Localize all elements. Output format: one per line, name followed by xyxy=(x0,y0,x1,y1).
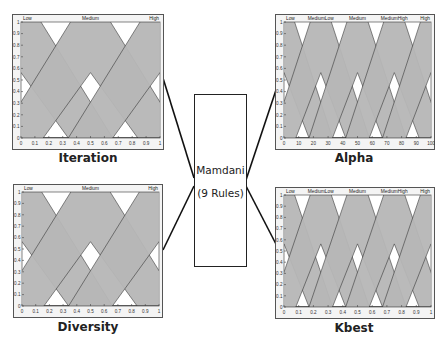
svg-text:0.3: 0.3 xyxy=(60,141,67,146)
svg-text:1: 1 xyxy=(18,190,21,195)
svg-text:0.5: 0.5 xyxy=(14,247,21,252)
svg-text:0.9: 0.9 xyxy=(13,31,20,36)
diversity-caption: Diversity xyxy=(13,320,163,334)
rules-count-label: (9 Rules) xyxy=(195,187,246,199)
svg-text:Low: Low xyxy=(24,186,33,191)
svg-text:0.5: 0.5 xyxy=(87,141,94,146)
svg-text:1: 1 xyxy=(280,193,283,198)
svg-text:0.6: 0.6 xyxy=(101,309,108,314)
svg-text:1: 1 xyxy=(280,20,283,25)
svg-text:0.1: 0.1 xyxy=(276,294,283,299)
svg-text:Medium: Medium xyxy=(82,186,99,191)
svg-text:0: 0 xyxy=(283,310,286,315)
svg-text:1: 1 xyxy=(430,310,433,315)
svg-text:0.3: 0.3 xyxy=(14,270,21,275)
mamdani-label: Mamdani xyxy=(195,164,246,176)
svg-text:0.5: 0.5 xyxy=(87,309,94,314)
svg-text:0.8: 0.8 xyxy=(398,310,405,315)
kbest-caption: Kbest xyxy=(275,321,433,335)
svg-text:90: 90 xyxy=(414,141,420,146)
svg-text:0.2: 0.2 xyxy=(13,113,20,118)
svg-text:Medium: Medium xyxy=(349,189,366,194)
connector-iteration xyxy=(163,78,194,178)
alpha-membership-chart: 00.10.20.30.40.50.60.70.80.9101020304050… xyxy=(275,14,435,150)
svg-text:0.5: 0.5 xyxy=(276,78,283,83)
svg-text:0.2: 0.2 xyxy=(276,113,283,118)
svg-text:0.9: 0.9 xyxy=(276,204,283,209)
svg-text:0.7: 0.7 xyxy=(276,55,283,60)
svg-text:Medium: Medium xyxy=(349,16,366,21)
svg-text:0.6: 0.6 xyxy=(13,66,20,71)
svg-text:0.6: 0.6 xyxy=(276,238,283,243)
svg-text:Low: Low xyxy=(286,16,295,21)
svg-text:0.6: 0.6 xyxy=(14,235,21,240)
svg-text:MediumLow: MediumLow xyxy=(308,16,334,21)
svg-text:0.4: 0.4 xyxy=(276,260,283,265)
svg-text:70: 70 xyxy=(384,141,390,146)
svg-text:Medium: Medium xyxy=(82,16,99,21)
svg-text:60: 60 xyxy=(370,141,376,146)
svg-text:0.4: 0.4 xyxy=(13,89,20,94)
svg-text:0.8: 0.8 xyxy=(13,43,20,48)
svg-text:0.3: 0.3 xyxy=(13,101,20,106)
svg-text:0.1: 0.1 xyxy=(32,141,39,146)
svg-text:0.1: 0.1 xyxy=(276,124,283,129)
svg-text:Low: Low xyxy=(23,16,32,21)
svg-text:0.4: 0.4 xyxy=(14,258,21,263)
svg-text:0.7: 0.7 xyxy=(276,226,283,231)
svg-text:0.5: 0.5 xyxy=(354,310,361,315)
connector-alpha xyxy=(246,84,278,180)
connector-kbest xyxy=(246,186,278,248)
svg-text:0.3: 0.3 xyxy=(325,310,332,315)
svg-text:0.9: 0.9 xyxy=(276,31,283,36)
svg-text:High: High xyxy=(420,16,430,21)
svg-text:0.7: 0.7 xyxy=(384,310,391,315)
svg-text:MediumHigh: MediumHigh xyxy=(381,189,408,194)
iteration-membership-chart: 00.10.20.30.40.50.60.70.80.9100.10.20.30… xyxy=(12,14,164,150)
svg-text:0.6: 0.6 xyxy=(101,141,108,146)
svg-text:0.9: 0.9 xyxy=(413,310,420,315)
svg-text:0.2: 0.2 xyxy=(276,282,283,287)
svg-text:40: 40 xyxy=(340,141,346,146)
svg-text:0.4: 0.4 xyxy=(73,141,80,146)
svg-text:0.1: 0.1 xyxy=(13,124,20,129)
svg-text:0.5: 0.5 xyxy=(276,249,283,254)
svg-text:0.5: 0.5 xyxy=(13,78,20,83)
svg-text:0.7: 0.7 xyxy=(14,224,21,229)
kbest-membership-chart: 00.10.20.30.40.50.60.70.80.9100.10.20.30… xyxy=(275,187,435,319)
svg-text:0.8: 0.8 xyxy=(14,213,21,218)
svg-text:1: 1 xyxy=(17,20,20,25)
svg-text:0.6: 0.6 xyxy=(276,66,283,71)
svg-text:0.9: 0.9 xyxy=(14,201,21,206)
svg-text:High: High xyxy=(148,186,158,191)
svg-text:0.9: 0.9 xyxy=(142,309,149,314)
svg-text:0.7: 0.7 xyxy=(115,309,122,314)
svg-text:0.8: 0.8 xyxy=(129,141,136,146)
svg-text:0.7: 0.7 xyxy=(13,55,20,60)
svg-text:0.2: 0.2 xyxy=(310,310,317,315)
svg-text:High: High xyxy=(149,16,159,21)
svg-text:0.8: 0.8 xyxy=(276,43,283,48)
svg-text:0.9: 0.9 xyxy=(143,141,150,146)
svg-text:MediumLow: MediumLow xyxy=(308,189,334,194)
svg-text:0.2: 0.2 xyxy=(14,281,21,286)
diversity-membership-chart: 00.10.20.30.40.50.60.70.80.9100.10.20.30… xyxy=(13,184,163,318)
svg-text:0: 0 xyxy=(283,141,286,146)
svg-text:20: 20 xyxy=(311,141,317,146)
svg-text:0.6: 0.6 xyxy=(369,310,376,315)
svg-text:0.8: 0.8 xyxy=(128,309,135,314)
iteration-caption: Iteration xyxy=(12,151,164,165)
svg-text:50: 50 xyxy=(355,141,361,146)
svg-text:0.1: 0.1 xyxy=(296,310,303,315)
svg-text:MediumHigh: MediumHigh xyxy=(381,16,408,21)
svg-text:0.4: 0.4 xyxy=(276,89,283,94)
mamdani-inference-box: Mamdani (9 Rules) xyxy=(194,94,247,267)
svg-text:80: 80 xyxy=(399,141,405,146)
svg-text:0.3: 0.3 xyxy=(276,271,283,276)
alpha-caption: Alpha xyxy=(275,151,433,165)
svg-text:0.8: 0.8 xyxy=(276,215,283,220)
svg-text:0.1: 0.1 xyxy=(14,292,21,297)
svg-text:0: 0 xyxy=(21,309,24,314)
svg-text:0.4: 0.4 xyxy=(340,310,347,315)
svg-text:0.3: 0.3 xyxy=(60,309,67,314)
